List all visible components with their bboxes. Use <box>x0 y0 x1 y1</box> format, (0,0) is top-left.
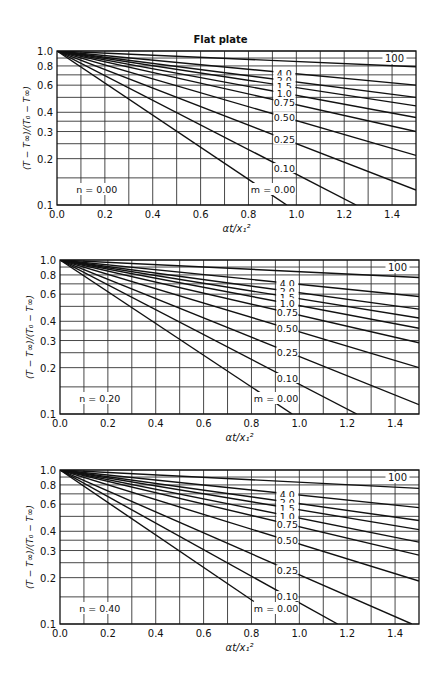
y-tick-label: 0.8 <box>40 480 56 491</box>
curve-label-100: 100 <box>388 262 407 273</box>
curve-m-4.0 <box>57 51 416 85</box>
y-tick-label: 0.6 <box>40 499 56 510</box>
y-axis-label: (T − T∞)/(T₀ − T∞) <box>25 505 35 589</box>
y-tick-label: 1.0 <box>37 46 53 57</box>
y-tick-label: 1.0 <box>40 255 56 266</box>
x-axis-label: αt/x₁² <box>226 432 254 443</box>
curve-m-0.25 <box>57 51 416 190</box>
y-tick-label: 0.2 <box>37 154 53 165</box>
x-tick-label: 1.2 <box>339 628 355 639</box>
x-tick-labels: 0.00.20.40.60.81.01.21.4 <box>52 418 403 429</box>
curve-label: 0.25 <box>274 134 295 145</box>
x-tick-labels: 0.00.20.40.60.81.01.21.4 <box>49 209 400 220</box>
x-tick-label: 1.4 <box>384 209 400 220</box>
chart-panel-2: 1.00.80.60.40.30.20.10.00.20.40.60.81.01… <box>25 465 419 653</box>
m-parameter-label: m = 0.00 <box>254 393 298 404</box>
y-tick-label: 0.4 <box>40 526 56 537</box>
x-tick-labels: 0.00.20.40.60.81.01.21.4 <box>52 628 403 639</box>
y-tick-label: 0.8 <box>37 61 53 72</box>
y-tick-labels: 1.00.80.60.40.30.20.1 <box>40 465 56 630</box>
chart-panel-1: 1.00.80.60.40.30.20.10.00.20.40.60.81.01… <box>25 255 419 443</box>
x-tick-label: 0.0 <box>49 209 65 220</box>
x-tick-label: 1.2 <box>336 209 352 220</box>
x-tick-label: 0.6 <box>196 628 212 639</box>
x-tick-label: 1.4 <box>387 418 403 429</box>
x-axis-label: αt/x₁² <box>223 223 251 234</box>
curve-label: 0.25 <box>277 565 298 576</box>
curve-labels: 4.02.01.51.00.750.500.250.10 <box>276 489 298 602</box>
y-tick-label: 0.4 <box>40 316 56 327</box>
curve-label-100: 100 <box>388 472 407 483</box>
curve-label: 0.50 <box>274 112 295 123</box>
curve-m-0.75 <box>57 51 416 132</box>
curve-m-4.0 <box>60 260 419 296</box>
curve-m-0.50 <box>60 260 419 368</box>
vertical-gridlines <box>84 470 395 624</box>
curve-label: 0.50 <box>277 535 298 546</box>
curve-m-0.00 <box>60 260 292 414</box>
x-tick-label: 0.8 <box>241 209 257 220</box>
curve-label-100: 100 <box>385 53 404 64</box>
curve-label: 0.75 <box>277 307 298 318</box>
curve-label: 0.75 <box>277 519 298 530</box>
curve-m-0.25 <box>60 260 419 405</box>
n-parameter-label: n = 0.40 <box>79 603 120 614</box>
curve-label: 0.50 <box>277 323 298 334</box>
y-axis-label: (T − T∞)/(T₀ − T∞) <box>22 86 32 170</box>
x-tick-label: 0.2 <box>100 418 116 429</box>
y-tick-label: 1.0 <box>40 465 56 476</box>
curves <box>60 470 419 624</box>
vertical-gridlines <box>84 260 395 414</box>
x-tick-label: 0.0 <box>52 418 68 429</box>
curve-label: 0.10 <box>277 591 298 602</box>
x-tick-label: 0.4 <box>148 418 164 429</box>
x-axis-label: αt/x₁² <box>226 642 254 653</box>
x-tick-label: 1.0 <box>291 418 307 429</box>
curves <box>57 51 416 205</box>
y-tick-label: 0.3 <box>40 546 56 557</box>
x-tick-label: 1.2 <box>339 418 355 429</box>
y-tick-label: 0.8 <box>40 270 56 281</box>
y-tick-label: 0.3 <box>40 336 56 347</box>
x-tick-label: 0.0 <box>52 628 68 639</box>
y-tick-labels: 1.00.80.60.40.30.20.1 <box>37 46 53 211</box>
curves <box>60 260 419 414</box>
x-tick-label: 0.2 <box>97 209 113 220</box>
y-tick-label: 0.4 <box>37 107 53 118</box>
figure-title: Flat plate <box>0 34 441 45</box>
y-tick-label: 0.6 <box>40 289 56 300</box>
m-parameter-label: m = 0.00 <box>254 603 298 614</box>
curve-m-0.00 <box>57 51 287 205</box>
curve-m-4.0 <box>60 470 419 508</box>
horizontal-gridlines <box>60 260 419 414</box>
n-parameter-label: n = 0.00 <box>76 184 117 195</box>
curve-label: 0.10 <box>277 373 298 384</box>
x-tick-label: 0.4 <box>145 209 161 220</box>
curve-labels: 4.02.01.51.00.750.500.250.10 <box>273 68 295 174</box>
x-tick-label: 0.8 <box>244 418 260 429</box>
curve-m-0.50 <box>60 470 419 581</box>
plot-frame <box>60 260 419 414</box>
chart-panel-0: 1.00.80.60.40.30.20.10.00.20.40.60.81.01… <box>22 46 416 234</box>
m-parameter-label: m = 0.00 <box>251 184 295 195</box>
curve-m-1.0 <box>57 51 416 117</box>
y-tick-label: 0.6 <box>37 80 53 91</box>
x-tick-label: 0.4 <box>148 628 164 639</box>
n-parameter-label: n = 0.20 <box>79 393 120 404</box>
y-tick-label: 0.2 <box>40 573 56 584</box>
y-tick-label: 0.2 <box>40 363 56 374</box>
y-tick-label: 0.3 <box>37 127 53 138</box>
figure: Flat plate 1.00.80.60.40.30.20.10.00.20.… <box>0 0 441 679</box>
x-tick-label: 0.8 <box>244 628 260 639</box>
x-tick-label: 0.6 <box>196 418 212 429</box>
y-axis-label: (T − T∞)/(T₀ − T∞) <box>25 295 35 379</box>
curve-label: 0.10 <box>274 163 295 174</box>
chart-canvas: 1.00.80.60.40.30.20.10.00.20.40.60.81.01… <box>0 0 441 679</box>
y-tick-labels: 1.00.80.60.40.30.20.1 <box>40 255 56 420</box>
curve-labels: 4.02.01.51.00.750.500.250.10 <box>276 278 298 384</box>
curve-label: 0.75 <box>274 97 295 108</box>
curve-label: 0.25 <box>277 347 298 358</box>
curve-m-0.50 <box>57 51 416 155</box>
x-tick-label: 1.0 <box>288 209 304 220</box>
curve-m-0.10 <box>60 260 357 414</box>
